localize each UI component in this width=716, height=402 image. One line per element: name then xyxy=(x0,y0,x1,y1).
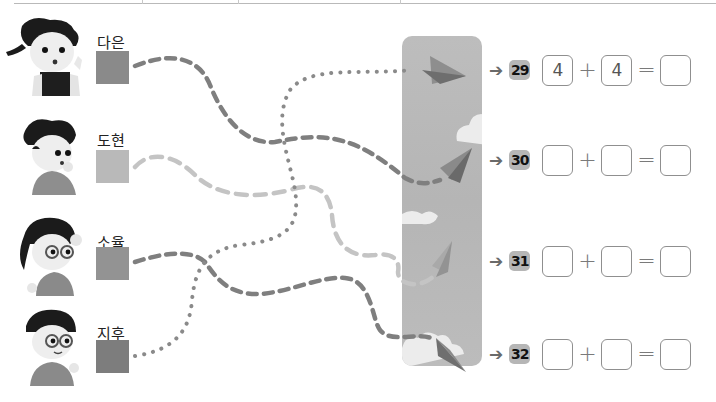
problem-row-32: ➔ 32 + = xyxy=(489,337,691,371)
addend-b-input[interactable] xyxy=(601,246,632,277)
problem-row-29: ➔ 29 4 + 4 = xyxy=(489,53,691,87)
arrow-right-icon: ➔ xyxy=(489,60,507,80)
sum-input[interactable] xyxy=(660,145,691,176)
addend-a-input[interactable] xyxy=(542,145,573,176)
problem-number: 30 xyxy=(509,150,530,170)
equals-sign: = xyxy=(632,149,660,171)
boy-glasses-avatar-icon xyxy=(0,306,90,386)
color-swatch xyxy=(96,51,129,84)
child-soyul xyxy=(0,216,90,296)
addend-a-input[interactable] xyxy=(542,246,573,277)
girl-glasses-avatar-icon xyxy=(0,216,90,296)
child-daeun xyxy=(0,16,90,96)
problem-row-31: ➔ 31 + = xyxy=(489,244,691,278)
paper-plane-icon xyxy=(432,241,452,277)
arrow-right-icon: ➔ xyxy=(489,344,507,364)
plus-sign: + xyxy=(573,250,601,272)
problem-row-30: ➔ 30 + = xyxy=(489,143,691,177)
arrow-right-icon: ➔ xyxy=(489,251,507,271)
plus-sign: + xyxy=(573,343,601,365)
sum-input[interactable] xyxy=(660,55,691,86)
color-swatch xyxy=(96,340,129,373)
color-swatch xyxy=(96,150,129,183)
addend-b-input[interactable]: 4 xyxy=(601,55,632,86)
equals-sign: = xyxy=(632,59,660,81)
addend-b-input[interactable] xyxy=(601,145,632,176)
sum-input[interactable] xyxy=(660,339,691,370)
child-name-label: 도현 xyxy=(97,129,124,150)
color-swatch xyxy=(96,247,129,280)
problem-number: 31 xyxy=(509,251,530,271)
sum-input[interactable] xyxy=(660,246,691,277)
child-name-label: 다은 xyxy=(97,31,124,52)
addend-b-input[interactable] xyxy=(601,339,632,370)
boy-avatar-icon xyxy=(0,115,90,195)
addend-a-input[interactable] xyxy=(542,339,573,370)
plus-sign: + xyxy=(573,149,601,171)
problem-number: 29 xyxy=(509,60,530,80)
paper-plane-icon xyxy=(422,56,466,84)
paper-plane-icon xyxy=(440,148,472,183)
arrow-right-icon: ➔ xyxy=(489,150,507,170)
plus-sign: + xyxy=(573,59,601,81)
girl-avatar-icon xyxy=(0,16,90,96)
paper-plane-icon xyxy=(436,338,466,372)
equals-sign: = xyxy=(632,250,660,272)
equals-sign: = xyxy=(632,343,660,365)
child-jihu xyxy=(0,306,90,386)
problem-number: 32 xyxy=(509,344,530,364)
addend-a-input[interactable]: 4 xyxy=(542,55,573,86)
child-dohyun xyxy=(0,115,90,195)
